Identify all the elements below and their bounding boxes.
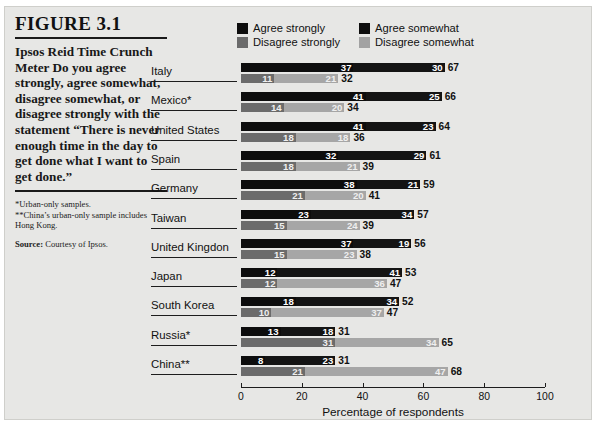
disagree-bar: 152439 — [241, 221, 374, 230]
country-label-rule — [151, 81, 237, 82]
disagree-bar-segment-second: 24 — [287, 221, 360, 230]
country-label-rule — [151, 198, 237, 199]
agree-bar: 412566 — [241, 92, 456, 101]
disagree-bar: 212041 — [241, 191, 380, 200]
agree-bar-value-second: 30 — [432, 63, 445, 72]
disagree-bar-segment-second: 34 — [335, 338, 438, 347]
country-label-rule — [151, 286, 237, 287]
disagree-bar: 142034 — [241, 103, 359, 112]
disagree-bar: 181836 — [241, 133, 365, 142]
agree-bar-segment-second: 25 — [366, 92, 442, 101]
agree-bar: 82331 — [241, 356, 350, 365]
agree-bar-value-first: 23 — [298, 210, 311, 219]
disagree-bar: 103747 — [241, 308, 398, 317]
country-label: United Kingdon — [151, 241, 229, 253]
disagree-bar-value-second: 36 — [374, 279, 387, 288]
disagree-bar-segment-first: 15 — [241, 250, 287, 259]
agree-bar-segment-first: 32 — [241, 151, 338, 160]
x-axis-tick-label: 100 — [536, 391, 553, 402]
agree-bar-value-second: 23 — [423, 122, 436, 131]
country-label-rule — [151, 257, 237, 258]
disagree-bar-segment-second: 36 — [277, 279, 386, 288]
x-axis-tick — [545, 383, 546, 387]
agree-bar-value-first: 37 — [341, 239, 354, 248]
disagree-bar-value-second: 20 — [332, 103, 345, 112]
disagree-bar-segment-first: 18 — [241, 133, 296, 142]
disagree-bar-total: 68 — [448, 367, 462, 376]
disagree-bar-value-first: 12 — [265, 279, 278, 288]
disagree-bar: 182139 — [241, 162, 374, 171]
agree-bar-value-first: 18 — [283, 297, 296, 306]
disagree-bar-total: 47 — [384, 308, 398, 317]
x-axis-tick-label: 40 — [357, 391, 369, 402]
agree-bar-segment-first: 8 — [241, 356, 265, 365]
agree-bar-segment-second: 30 — [353, 63, 444, 72]
agree-bar-segment-second: 23 — [366, 122, 436, 131]
country-label: China** — [151, 358, 190, 370]
agree-bar-total: 31 — [335, 356, 349, 365]
disagree-bar-value-first: 31 — [323, 338, 336, 347]
country-label: Spain — [151, 153, 180, 165]
country-label-rule — [151, 140, 237, 141]
agree-bar-total: 64 — [436, 122, 450, 131]
disagree-bar-value-second: 21 — [347, 162, 360, 171]
disagree-bar-segment-first: 31 — [241, 338, 335, 347]
agree-bar-segment-second: 19 — [353, 239, 411, 248]
disagree-bar-total: 39 — [360, 221, 374, 230]
disagree-bar-segment-first: 12 — [241, 279, 277, 288]
agree-bar-segment-second: 18 — [281, 327, 336, 336]
disagree-bar-value-second: 24 — [347, 221, 360, 230]
x-axis-tick — [302, 383, 303, 387]
x-axis-tick-label: 20 — [296, 391, 308, 402]
agree-bar-segment-first: 37 — [241, 239, 353, 248]
agree-bar-value-second: 34 — [402, 210, 415, 219]
disagree-bar-total: 38 — [357, 250, 371, 259]
x-axis-tick — [241, 383, 242, 387]
agree-bar: 183452 — [241, 297, 413, 306]
x-axis-tick — [363, 383, 364, 387]
agree-bar-value-first: 41 — [353, 122, 366, 131]
agree-bar-total: 31 — [335, 327, 349, 336]
agree-bar-total: 56 — [411, 239, 425, 248]
agree-bar: 131831 — [241, 327, 350, 336]
figure-panel: FIGURE 3.1 Ipsos Reid Time Crunch Meter … — [4, 6, 592, 420]
disagree-bar-value-first: 18 — [283, 162, 296, 171]
disagree-bar-segment-second: 47 — [305, 367, 448, 376]
agree-bar-value-second: 23 — [323, 356, 336, 365]
country-label: Germany — [151, 182, 198, 194]
agree-bar-segment-second: 23 — [265, 356, 335, 365]
agree-bar-segment-second: 41 — [277, 268, 402, 277]
agree-bar-segment-second: 29 — [338, 151, 426, 160]
agree-bar-segment-first: 41 — [241, 122, 366, 131]
agree-bar: 412364 — [241, 122, 450, 131]
x-axis-line — [241, 387, 545, 388]
country-label: Taiwan — [151, 212, 186, 224]
agree-bar-value-first: 32 — [326, 151, 339, 160]
disagree-bar-segment-second: 23 — [287, 250, 357, 259]
agree-bar-segment-first: 41 — [241, 92, 366, 101]
country-label-rule — [151, 169, 237, 170]
x-axis-tick-label: 80 — [478, 391, 490, 402]
agree-bar-value-second: 41 — [389, 268, 402, 277]
agree-bar-segment-first: 13 — [241, 327, 281, 336]
agree-bar-value-first: 8 — [258, 356, 265, 365]
disagree-bar-total: 41 — [366, 191, 380, 200]
disagree-bar-value-first: 10 — [259, 308, 272, 317]
disagree-bar-segment-first: 21 — [241, 367, 305, 376]
agree-bar-segment-second: 34 — [311, 210, 414, 219]
disagree-bar-segment-first: 14 — [241, 103, 284, 112]
agree-bar-value-second: 18 — [323, 327, 336, 336]
disagree-bar-total: 34 — [344, 103, 358, 112]
disagree-bar-total: 32 — [338, 74, 352, 83]
agree-bar-value-first: 37 — [341, 63, 354, 72]
agree-bar-total: 53 — [402, 268, 416, 277]
disagree-bar-segment-first: 21 — [241, 191, 305, 200]
agree-bar-segment-second: 21 — [357, 180, 421, 189]
agree-bar: 373067 — [241, 63, 459, 72]
country-label-rule — [151, 374, 237, 375]
disagree-bar-value-first: 15 — [274, 221, 287, 230]
country-label-rule — [151, 110, 237, 111]
agree-bar-total: 59 — [420, 180, 434, 189]
disagree-bar-segment-second: 20 — [305, 191, 366, 200]
disagree-bar: 214768 — [241, 367, 462, 376]
